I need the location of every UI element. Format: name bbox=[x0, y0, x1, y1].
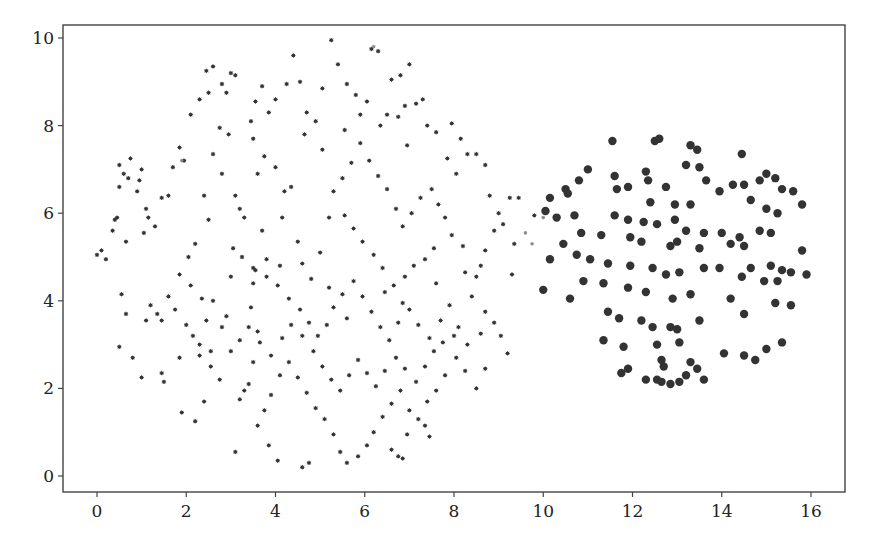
data-point bbox=[383, 369, 387, 373]
data-point bbox=[483, 310, 487, 314]
data-point bbox=[474, 152, 478, 156]
data-point bbox=[358, 112, 362, 116]
data-point bbox=[376, 174, 380, 178]
data-point bbox=[682, 371, 690, 379]
data-point bbox=[191, 334, 195, 338]
data-point bbox=[356, 454, 360, 458]
data-point bbox=[262, 154, 266, 158]
plot-frame bbox=[63, 25, 845, 492]
data-point bbox=[483, 163, 487, 167]
data-point bbox=[296, 375, 300, 379]
data-point bbox=[559, 240, 567, 248]
data-point bbox=[434, 281, 438, 285]
data-point bbox=[305, 391, 309, 395]
y-tick-label: 0 bbox=[43, 466, 54, 486]
data-point bbox=[211, 64, 215, 68]
data-point bbox=[479, 331, 483, 335]
data-point bbox=[610, 172, 618, 180]
data-point bbox=[675, 378, 683, 386]
data-point bbox=[456, 325, 460, 329]
data-point bbox=[249, 119, 253, 123]
data-point bbox=[773, 209, 781, 217]
data-point bbox=[773, 277, 781, 285]
x-tick-label: 10 bbox=[532, 501, 554, 521]
data-point bbox=[193, 419, 197, 423]
data-point bbox=[356, 358, 360, 362]
data-point bbox=[787, 301, 795, 309]
data-point bbox=[260, 84, 264, 88]
data-point bbox=[517, 196, 521, 200]
data-point bbox=[238, 338, 242, 342]
data-point bbox=[309, 277, 313, 281]
data-points bbox=[95, 38, 811, 469]
data-point bbox=[298, 307, 302, 311]
data-point bbox=[396, 321, 400, 325]
data-point bbox=[126, 176, 130, 180]
data-point bbox=[646, 198, 654, 206]
data-point bbox=[224, 314, 228, 318]
data-point bbox=[249, 305, 253, 309]
data-point bbox=[751, 356, 759, 364]
x-tick-label: 2 bbox=[181, 501, 192, 521]
y-tick-label: 2 bbox=[43, 378, 54, 398]
data-point bbox=[307, 321, 311, 325]
data-point bbox=[135, 189, 139, 193]
data-point bbox=[619, 343, 627, 351]
data-point bbox=[99, 248, 103, 252]
data-point bbox=[432, 349, 436, 353]
data-point bbox=[197, 97, 201, 101]
data-point bbox=[407, 408, 411, 412]
data-point bbox=[767, 262, 775, 270]
data-point bbox=[336, 62, 340, 66]
data-point bbox=[148, 303, 152, 307]
data-point bbox=[599, 279, 607, 287]
data-point bbox=[287, 360, 291, 364]
data-point bbox=[639, 218, 647, 226]
data-point bbox=[615, 314, 623, 322]
data-point bbox=[510, 272, 514, 276]
data-point bbox=[360, 239, 364, 243]
data-point bbox=[389, 77, 393, 81]
data-point bbox=[501, 222, 505, 226]
data-point bbox=[532, 213, 536, 217]
data-point bbox=[385, 187, 389, 191]
data-point bbox=[463, 270, 467, 274]
data-point bbox=[599, 336, 607, 344]
data-point bbox=[139, 375, 143, 379]
data-point bbox=[258, 340, 262, 344]
data-point bbox=[110, 229, 114, 233]
data-point bbox=[394, 207, 398, 211]
data-point bbox=[789, 187, 797, 195]
data-point bbox=[400, 301, 404, 305]
data-point bbox=[608, 137, 616, 145]
data-point bbox=[184, 323, 188, 327]
data-point bbox=[499, 334, 503, 338]
data-point bbox=[371, 253, 375, 257]
data-point bbox=[573, 251, 581, 259]
data-point bbox=[798, 200, 806, 208]
data-point bbox=[166, 294, 170, 298]
data-point bbox=[637, 316, 645, 324]
data-point bbox=[653, 220, 661, 228]
data-point bbox=[378, 325, 382, 329]
data-point bbox=[300, 261, 304, 265]
data-point bbox=[238, 397, 242, 401]
data-point bbox=[740, 181, 748, 189]
data-point bbox=[740, 351, 748, 359]
data-point bbox=[365, 99, 369, 103]
data-point bbox=[450, 233, 454, 237]
data-point bbox=[418, 196, 422, 200]
data-point bbox=[760, 277, 768, 285]
data-point bbox=[240, 255, 244, 259]
data-point bbox=[660, 362, 668, 370]
data-point bbox=[575, 176, 583, 184]
data-point bbox=[322, 417, 326, 421]
data-point bbox=[117, 163, 121, 167]
data-point bbox=[403, 366, 407, 370]
data-point bbox=[738, 150, 746, 158]
data-point bbox=[327, 285, 331, 289]
data-point bbox=[747, 264, 755, 272]
data-point bbox=[365, 371, 369, 375]
data-point bbox=[407, 307, 411, 311]
data-point bbox=[778, 266, 786, 274]
